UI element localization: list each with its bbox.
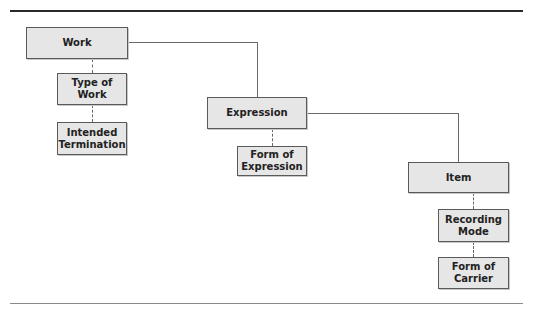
connector-work-expression-v — [257, 42, 258, 97]
dashed-connector-type-termination — [92, 105, 93, 122]
node-label: Form of Carrier — [452, 261, 495, 285]
node-intended-termination: Intended Termination — [57, 122, 127, 155]
node-form-of-expression: Form of Expression — [237, 146, 307, 176]
node-label: Intended Termination — [58, 127, 125, 151]
node-expression: Expression — [207, 97, 307, 129]
node-label: Form of Expression — [241, 149, 302, 173]
node-recording-mode: Recording Mode — [438, 209, 509, 242]
node-type-of-work: Type of Work — [57, 73, 127, 105]
node-work: Work — [26, 27, 128, 59]
node-label: Expression — [226, 107, 287, 119]
top-rule — [10, 10, 523, 12]
node-label: Work — [62, 37, 91, 49]
node-label: Item — [446, 172, 472, 184]
dashed-connector-work-type — [92, 59, 93, 73]
node-label: Type of Work — [58, 77, 126, 101]
node-label: Recording Mode — [445, 214, 502, 238]
dashed-connector-item-recording — [473, 193, 474, 209]
bottom-rule — [10, 303, 523, 304]
node-item: Item — [408, 162, 509, 193]
connector-work-expression-h — [128, 42, 258, 43]
dashed-connector-expression-form — [272, 129, 273, 146]
node-form-of-carrier: Form of Carrier — [438, 257, 509, 289]
dashed-connector-recording-carrier — [473, 242, 474, 257]
connector-expression-item-h — [307, 113, 459, 114]
connector-expression-item-v — [458, 113, 459, 162]
